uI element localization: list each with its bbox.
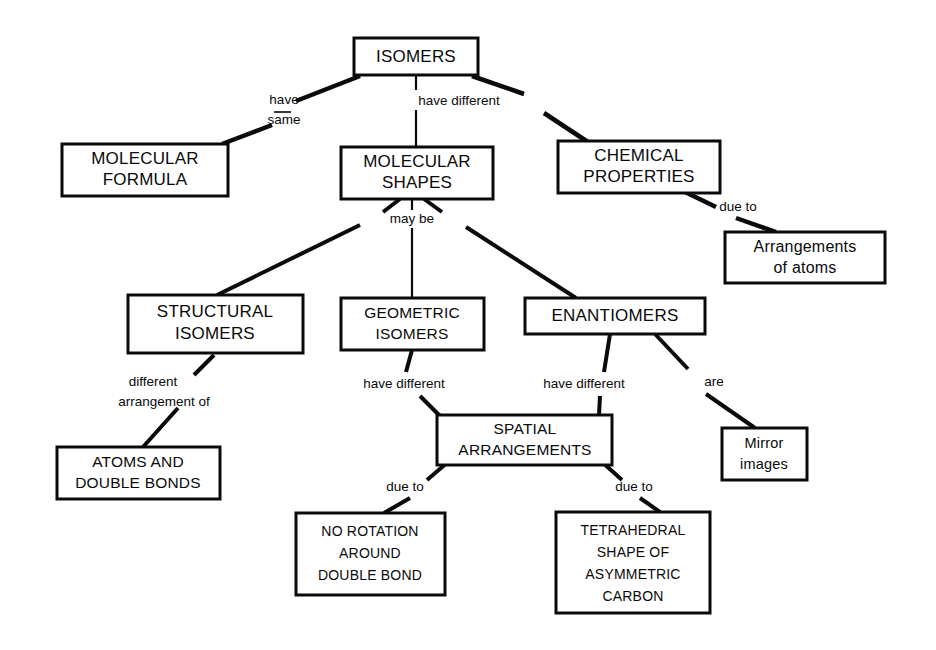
edge-spatial-to-no-rotation-lower [384,498,410,513]
node-mirror-images-line-0: Mirror [744,435,783,451]
link-label-may-be: may be [390,211,434,226]
node-molecular-formula[interactable]: MOLECULAR FORMULA [62,144,228,196]
node-no-rotation-around-double-bond[interactable]: NO ROTATION AROUND DOUBLE BOND [296,513,445,595]
node-molecular-shapes-line-1: SHAPES [382,173,452,192]
node-geometric-isomers-line-1: ISOMERS [376,325,449,342]
link-label-due-to-chemical: due to [719,199,757,214]
node-mirror-images[interactable]: Mirror images [722,428,807,480]
node-no-rotation-line-2: DOUBLE BOND [318,567,422,583]
link-label-have: have [269,92,298,107]
node-mirror-images-line-1: images [740,456,788,472]
node-spatial-arrangements-line-1: ARRANGEMENTS [458,441,591,458]
node-tetrahedral-line-2: ASYMMETRIC [585,566,680,582]
node-chemical-properties-line-0: CHEMICAL [594,146,683,165]
node-arrangements-of-atoms[interactable]: Arrangements of atoms [725,232,885,283]
link-label-due-to-right: due to [615,479,653,494]
node-structural-isomers[interactable]: STRUCTURAL ISOMERS [128,295,303,353]
edge-structural-to-atoms-upper [194,355,214,375]
node-chemical-properties-line-1: PROPERTIES [583,167,694,186]
link-label-have-different-enantiomers: have different [543,376,625,391]
edge-enantiomers-to-mirror-upper [655,334,688,369]
edge-molecular-shapes-to-structural-lower [217,225,360,295]
node-tetrahedral-line-3: CARBON [602,588,663,604]
node-atoms-and-double-bonds[interactable]: ATOMS AND DOUBLE BONDS [57,447,220,499]
edge-structural-to-atoms-lower [143,408,178,447]
node-enantiomers[interactable]: ENANTIOMERS [525,298,705,334]
edge-enantiomers-to-spatial-upper [604,334,610,372]
link-label-due-to-left: due to [386,479,424,494]
node-tetrahedral-line-1: SHAPE OF [597,544,669,560]
node-molecular-shapes-line-0: MOLECULAR [363,152,471,171]
node-tetrahedral-line-0: TETRAHEDRAL [581,522,686,538]
edge-isomers-to-chemical-properties-upper [472,76,524,94]
node-atoms-and-double-bonds-line-1: DOUBLE BONDS [75,474,201,491]
edge-spatial-to-tetrahedral-lower [640,498,660,512]
node-arrangements-of-atoms-line-0: Arrangements [754,238,857,255]
link-label-have-different-top: have different [418,93,500,108]
node-molecular-formula-line-1: FORMULA [103,170,188,189]
node-geometric-isomers[interactable]: GEOMETRIC ISOMERS [341,298,484,350]
concept-map-canvas: have same have different due to may be d… [0,0,936,650]
node-isomers[interactable]: ISOMERS [354,38,478,75]
node-spatial-arrangements[interactable]: SPATIAL ARRANGEMENTS [437,415,612,465]
node-tetrahedral-shape-of-asymmetric-carbon[interactable]: TETRAHEDRAL SHAPE OF ASYMMETRIC CARBON [556,512,710,613]
edge-isomers-to-molecular-formula-upper [296,76,360,101]
node-arrangements-of-atoms-line-1: of atoms [774,259,837,276]
link-label-different: different [129,374,178,389]
edge-isomers-to-molecular-formula-lower [222,125,272,144]
node-chemical-properties[interactable]: CHEMICAL PROPERTIES [558,141,720,193]
link-label-arrangement-of: arrangement of [118,394,210,409]
node-spatial-arrangements-line-0: SPATIAL [494,420,557,437]
node-geometric-isomers-line-0: GEOMETRIC [364,304,460,321]
edge-molecular-shapes-to-enantiomers-lower [466,227,576,298]
link-label-are: are [704,374,724,389]
node-no-rotation-line-0: NO ROTATION [321,523,418,539]
node-structural-isomers-line-1: ISOMERS [175,324,255,343]
link-label-have-different-geometric: have different [363,376,445,391]
edge-geometric-to-spatial-upper [406,350,412,372]
node-atoms-and-double-bonds-line-0: ATOMS AND [92,453,184,470]
node-enantiomers-line-0: ENANTIOMERS [552,306,679,325]
node-molecular-shapes[interactable]: MOLECULAR SHAPES [341,147,493,199]
edge-enantiomers-to-mirror-lower [706,394,755,428]
edge-chemical-properties-to-arrangements-lower [736,218,776,232]
node-no-rotation-line-1: AROUND [339,545,401,561]
node-structural-isomers-line-0: STRUCTURAL [157,302,273,321]
node-isomers-line-0: ISOMERS [376,47,456,66]
node-molecular-formula-line-0: MOLECULAR [91,149,199,168]
link-label-same: same [267,112,300,127]
